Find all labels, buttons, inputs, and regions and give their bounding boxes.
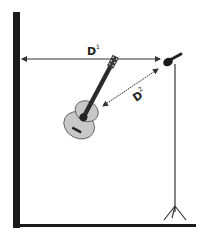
d1-superscript: 1 <box>96 43 100 50</box>
wall <box>13 12 20 228</box>
floor <box>13 224 196 227</box>
mic-stand-tripod <box>164 206 186 220</box>
microphone-icon <box>162 54 181 68</box>
diagram-svg: D 1 D 2 <box>0 0 206 242</box>
d2-arrow <box>103 69 158 106</box>
d1-label: D <box>87 45 96 58</box>
guitar-icon <box>59 49 130 144</box>
diagram-canvas: D 1 D 2 <box>0 0 206 242</box>
